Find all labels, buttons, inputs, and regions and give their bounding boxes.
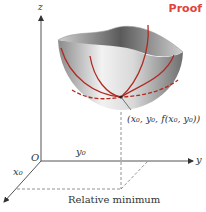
caption: Relative minimum	[68, 195, 160, 205]
projection-lines	[17, 97, 148, 189]
relative-minimum-diagram	[0, 0, 206, 212]
y-axis-label: y	[196, 155, 202, 165]
x0-label: x₀	[13, 167, 23, 177]
y0-label: y₀	[76, 147, 86, 157]
z-axis-label: z	[38, 3, 43, 12]
origin-label: O	[31, 153, 39, 163]
point-label: (x₀, y₀, f(x₀, y₀))	[127, 114, 200, 124]
